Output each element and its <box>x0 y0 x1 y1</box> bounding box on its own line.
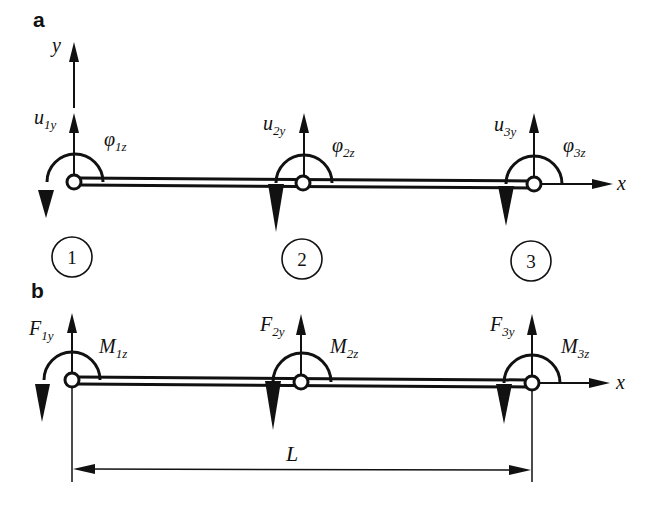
beam-diagram: a y x u1y φ1z u2y <box>0 0 645 513</box>
rotation-arrowhead-icon <box>268 184 284 232</box>
force-label: F1y <box>28 317 54 343</box>
rotation-label: φ1z <box>104 128 127 154</box>
displacement-arrow-icon <box>299 113 309 133</box>
moment-label: M2z <box>329 335 358 361</box>
node-circle <box>67 175 81 189</box>
moment-label: M3z <box>560 335 589 361</box>
x-axis-a: x <box>540 172 626 194</box>
rotation-arrowhead-icon <box>498 186 514 226</box>
y-axis-label: y <box>50 34 61 57</box>
svg-text:1: 1 <box>67 247 77 268</box>
node-a-3: u3y φ3z <box>494 113 586 226</box>
x-axis-arrow-icon <box>592 179 613 189</box>
node-b-3: F3y M3z <box>489 313 589 482</box>
node-a-1: u1y φ1z <box>34 106 127 218</box>
displacement-label: u2y <box>263 112 286 138</box>
force-label: F2y <box>259 313 285 339</box>
rotation-label: φ3z <box>563 134 586 160</box>
node-circle <box>525 376 539 390</box>
node-a-2: u2y φ2z <box>263 112 355 232</box>
node-number-1: 1 <box>52 237 92 277</box>
dimension-arrow-left-icon <box>73 464 95 474</box>
x-axis-label-b: x <box>615 371 625 393</box>
rotation-arrowhead-icon <box>38 190 54 218</box>
dimension-arrow-right-icon <box>509 465 531 475</box>
moment-arrowhead-icon <box>265 381 281 430</box>
x-axis-b: x <box>538 371 625 393</box>
node-number-3: 3 <box>511 241 551 281</box>
svg-text:2: 2 <box>297 249 307 270</box>
moment-arrowhead-icon <box>35 384 50 422</box>
node-circle <box>65 373 79 387</box>
force-arrow-icon <box>527 314 537 335</box>
rotation-label: φ2z <box>332 134 355 160</box>
displacement-arrow-icon <box>69 113 79 133</box>
displacement-label: u3y <box>494 113 517 139</box>
dimension-line-L: L <box>73 441 531 475</box>
x-axis-arrow-icon <box>589 378 610 388</box>
dimension-label: L <box>285 441 298 466</box>
displacement-arrow-icon <box>529 113 539 133</box>
y-axis-arrow-icon <box>69 42 79 62</box>
node-b-2: F2y M2z <box>259 313 358 430</box>
node-circle <box>294 375 308 389</box>
force-arrow-icon <box>67 313 77 333</box>
panel-label-a: a <box>33 8 45 31</box>
moment-arrowhead-icon <box>496 384 512 424</box>
force-arrow-icon <box>296 314 306 335</box>
node-number-2: 2 <box>282 239 322 279</box>
moment-label: M1z <box>98 335 127 361</box>
displacement-label: u1y <box>34 106 57 132</box>
svg-text:3: 3 <box>526 251 536 272</box>
panel-label-b: b <box>31 279 44 302</box>
node-circle <box>527 177 541 191</box>
node-circle <box>296 176 310 190</box>
y-axis: y <box>50 34 79 108</box>
node-b-1: F1y M1z <box>28 313 127 482</box>
force-label: F3y <box>489 313 515 339</box>
x-axis-label-a: x <box>616 172 626 194</box>
